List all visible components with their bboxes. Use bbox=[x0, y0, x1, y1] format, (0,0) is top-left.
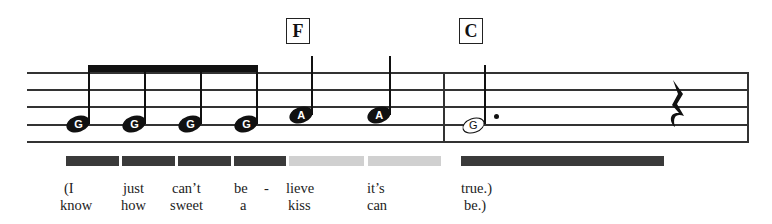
duration-bar bbox=[234, 156, 286, 166]
note-stem bbox=[311, 56, 313, 115]
note-stem bbox=[484, 65, 486, 124]
barline-middle bbox=[443, 72, 445, 142]
note-head-g-half: G bbox=[460, 115, 487, 137]
chord-symbol-f: F bbox=[286, 18, 310, 44]
quarter-rest-icon bbox=[667, 80, 689, 135]
lyric-hyphen: - bbox=[264, 181, 269, 196]
chord-label: C bbox=[465, 21, 478, 42]
augmentation-dot bbox=[494, 114, 499, 119]
lyric: lieve bbox=[286, 181, 314, 196]
lyric: it’s bbox=[367, 181, 385, 196]
note-letter: G bbox=[186, 119, 195, 130]
note-stem bbox=[200, 66, 202, 124]
duration-bar bbox=[289, 156, 364, 166]
lyric: can bbox=[367, 198, 387, 213]
note-letter: A bbox=[297, 110, 305, 121]
lyric: be bbox=[234, 181, 248, 196]
note-letter: G bbox=[469, 120, 478, 131]
lyric: can’t bbox=[172, 181, 201, 196]
note-stem bbox=[88, 66, 90, 124]
duration-bar bbox=[66, 156, 119, 166]
lyric: how bbox=[121, 198, 146, 213]
staff-line-2 bbox=[27, 89, 749, 91]
lyric: sweet bbox=[170, 198, 203, 213]
note-stem bbox=[256, 66, 258, 124]
note-letter: A bbox=[375, 110, 383, 121]
duration-bar bbox=[122, 156, 175, 166]
note-stem bbox=[144, 66, 146, 124]
chord-symbol-c: C bbox=[459, 18, 483, 44]
lyric: a bbox=[240, 198, 246, 213]
lyric: kiss bbox=[288, 198, 311, 213]
note-stem bbox=[389, 56, 391, 115]
eighth-note-beam bbox=[88, 65, 258, 72]
lyric: be.) bbox=[464, 198, 486, 213]
duration-bar bbox=[461, 156, 664, 166]
duration-bar bbox=[178, 156, 231, 166]
lyric: just bbox=[123, 181, 144, 196]
lyric: (I bbox=[64, 181, 74, 196]
staff-line-5 bbox=[27, 141, 749, 143]
note-letter: G bbox=[130, 119, 139, 130]
note-letter: G bbox=[74, 119, 83, 130]
chord-label: F bbox=[293, 21, 304, 42]
note-letter: G bbox=[242, 119, 251, 130]
lyric: true.) bbox=[461, 181, 492, 196]
staff-line-1 bbox=[27, 72, 749, 74]
duration-bar bbox=[368, 156, 441, 166]
lyric: know bbox=[60, 198, 92, 213]
barline-end bbox=[747, 72, 749, 142]
